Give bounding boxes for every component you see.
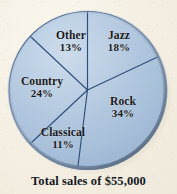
slice-label-rock: Rock 34% xyxy=(100,96,146,119)
chart-plot-area: Other 13% Jazz 18% Rock 34% Country 24% … xyxy=(0,0,177,176)
pie-chart-figure: Other 13% Jazz 18% Rock 34% Country 24% … xyxy=(0,0,177,194)
slice-label-jazz-percent: 18% xyxy=(96,42,142,53)
chart-caption: Total sales of $55,000 xyxy=(0,174,177,189)
slice-label-country-percent: 24% xyxy=(8,88,76,99)
slice-label-classical-percent: 11% xyxy=(29,139,97,150)
slice-label-classical: Classical 11% xyxy=(29,127,97,150)
slice-label-country: Country 24% xyxy=(8,76,76,99)
slice-label-other: Other 13% xyxy=(44,30,98,53)
slice-label-other-percent: 13% xyxy=(44,42,98,53)
slice-label-jazz: Jazz 18% xyxy=(96,30,142,53)
slice-label-rock-percent: 34% xyxy=(100,108,146,119)
